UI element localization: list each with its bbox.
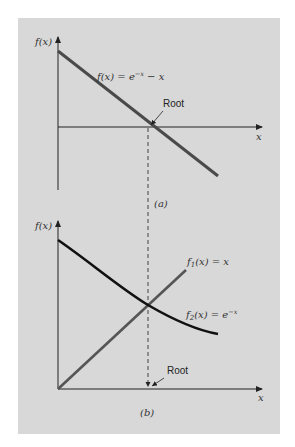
panel-b: f(x) x f1(x) = x f2(x) = e−x Root (b) [34, 220, 264, 418]
panel-b-root-leader [152, 378, 164, 386]
panel-b-root-label: Root [167, 365, 188, 376]
panel-a: f(x) x f(x) = e−x − x Root (a) [34, 36, 262, 209]
panel-a-root-label: Root [163, 98, 184, 109]
root-finding-figure: f(x) x f(x) = e−x − x Root (a) f(x) x f1… [0, 0, 295, 447]
panel-b-caption: (b) [140, 407, 154, 418]
panel-b-x-label: x [258, 392, 264, 403]
panel-b-f1-label: f1(x) = x [186, 256, 229, 269]
panel-b-y-label: f(x) [34, 220, 52, 231]
panel-b-f2-label: f2(x) = e−x [185, 308, 238, 322]
panel-a-x-label: x [256, 131, 262, 142]
panel-a-y-label: f(x) [34, 36, 52, 47]
panel-a-curve-label: f(x) = e−x − x [96, 70, 165, 82]
panel-a-root-leader [151, 111, 163, 125]
panel-a-caption: (a) [154, 198, 168, 209]
